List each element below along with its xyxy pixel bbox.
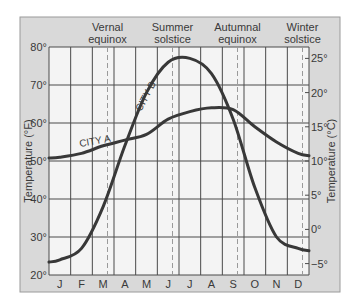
season-label: Winter	[287, 21, 319, 33]
y-tick-right: −5°	[311, 258, 328, 270]
season-label: Autumnal	[214, 21, 260, 33]
x-tick-month: F	[78, 278, 85, 290]
x-tick-month: O	[251, 278, 260, 290]
season-label: Vernal	[92, 21, 123, 33]
season-label: solstice	[154, 33, 191, 45]
x-tick-month: S	[229, 278, 236, 290]
y-tick-left: 70°	[30, 79, 47, 91]
x-tick-month: A	[121, 278, 129, 290]
y-tick-left: 30°	[30, 231, 47, 243]
x-tick-month: A	[208, 278, 216, 290]
season-label: solstice	[284, 33, 321, 45]
season-label: equinox	[88, 33, 127, 45]
season-label: equinox	[218, 33, 257, 45]
y-axis-right-title: Temperature (°C)	[325, 119, 337, 203]
x-tick-month: M	[142, 278, 151, 290]
x-tick-month: D	[294, 278, 302, 290]
y-tick-right: 20°	[311, 87, 328, 99]
x-tick-month: N	[273, 278, 281, 290]
season-label: Summer	[152, 21, 194, 33]
y-tick-left: 80°	[30, 41, 47, 53]
x-tick-month: J	[165, 278, 171, 290]
y-axis-left-title: Temperature (°F)	[22, 119, 34, 202]
y-tick-right: 5°	[311, 189, 322, 201]
x-tick-month: M	[99, 278, 108, 290]
x-tick-month: J	[187, 278, 193, 290]
x-tick-month: J	[57, 278, 63, 290]
y-tick-right: 0°	[311, 223, 322, 235]
y-tick-left: 20°	[30, 269, 47, 281]
temperature-chart: VernalequinoxSummersolsticeAutumnalequin…	[0, 0, 353, 306]
y-tick-right: 25°	[311, 52, 328, 64]
